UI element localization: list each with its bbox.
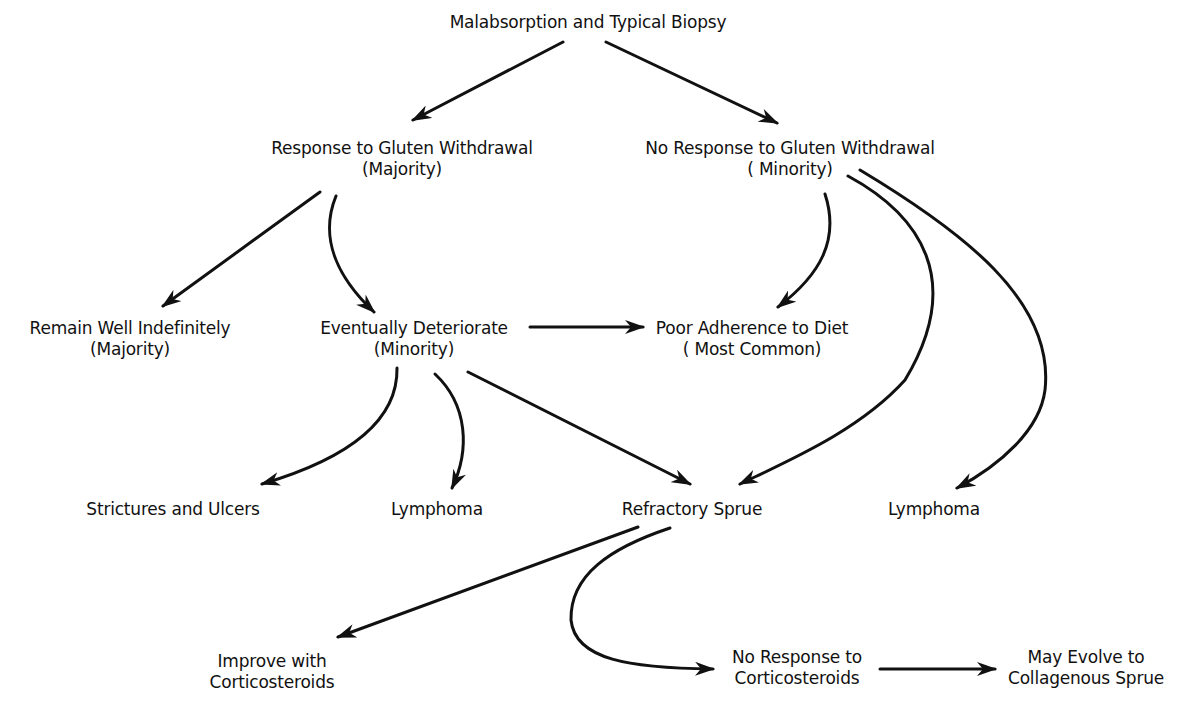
node-label: Improve with — [210, 651, 335, 672]
arrow-deteriorate-to-lymphoma-left — [435, 374, 463, 488]
arrow-response-to-deteriorate — [330, 196, 374, 312]
node-eventually-deteriorate: Eventually Deteriorate (Minority) — [320, 318, 508, 360]
node-sublabel: Corticosteroids — [732, 668, 862, 689]
node-sublabel: Collagenous Sprue — [1008, 668, 1164, 689]
node-sublabel: (Majority) — [30, 339, 231, 360]
flowchart-diagram: Malabsorption and Typical Biopsy Respons… — [0, 0, 1184, 704]
arrow-root-to-no-response — [606, 42, 777, 123]
arrow-root-to-response — [413, 42, 563, 120]
arrow-refractory-to-improve — [338, 527, 638, 637]
node-label: Eventually Deteriorate — [320, 318, 508, 339]
arrow-refractory-to-no-response-cs — [571, 528, 713, 669]
node-lymphoma-left: Lymphoma — [391, 499, 483, 520]
node-label: Refractory Sprue — [622, 499, 762, 520]
node-label: Response to Gluten Withdrawal — [271, 138, 533, 159]
node-no-response-gluten-withdrawal: No Response to Gluten Withdrawal ( Minor… — [645, 138, 934, 180]
node-sublabel: (Majority) — [271, 159, 533, 180]
node-response-gluten-withdrawal: Response to Gluten Withdrawal (Majority) — [271, 138, 533, 180]
arrow-deteriorate-to-strictures — [262, 368, 397, 484]
node-sublabel: Corticosteroids — [210, 672, 335, 693]
node-malabsorption-biopsy: Malabsorption and Typical Biopsy — [450, 12, 727, 33]
node-lymphoma-right: Lymphoma — [888, 499, 980, 520]
node-label: Remain Well Indefinitely — [30, 318, 231, 339]
node-strictures-ulcers: Strictures and Ulcers — [86, 499, 259, 520]
node-sublabel: (Minority) — [320, 339, 508, 360]
node-sublabel: ( Most Common) — [656, 339, 848, 360]
node-label: Strictures and Ulcers — [86, 499, 259, 520]
node-improve-corticosteroids: Improve with Corticosteroids — [210, 651, 335, 693]
node-collagenous-sprue: May Evolve to Collagenous Sprue — [1008, 647, 1164, 689]
node-label: No Response to — [732, 647, 862, 668]
node-label: Lymphoma — [391, 499, 483, 520]
node-refractory-sprue: Refractory Sprue — [622, 499, 762, 520]
arrow-response-to-remain-well — [163, 192, 320, 306]
node-label: May Evolve to — [1008, 647, 1164, 668]
node-remain-well: Remain Well Indefinitely (Majority) — [30, 318, 231, 360]
node-label: No Response to Gluten Withdrawal — [645, 138, 934, 159]
node-poor-adherence: Poor Adherence to Diet ( Most Common) — [656, 318, 848, 360]
arrow-no-response-to-lymphoma-right — [860, 170, 1046, 488]
node-label: Malabsorption and Typical Biopsy — [450, 12, 727, 33]
node-no-response-corticosteroids: No Response to Corticosteroids — [732, 647, 862, 689]
node-sublabel: ( Minority) — [645, 159, 934, 180]
node-label: Lymphoma — [888, 499, 980, 520]
node-label: Poor Adherence to Diet — [656, 318, 848, 339]
arrow-no-response-to-poor-adherence — [778, 194, 830, 307]
arrow-deteriorate-to-refractory — [468, 372, 690, 484]
